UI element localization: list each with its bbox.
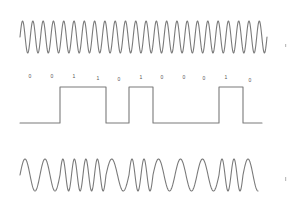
bit-label: 0 — [51, 73, 54, 79]
bit-label: 0 — [183, 74, 186, 80]
bit-label: 1 — [140, 74, 143, 80]
fsk-modulated-wave — [20, 159, 258, 191]
bit-label: 1 — [97, 75, 100, 81]
bit-label: 0 — [249, 77, 252, 83]
fsk-diagram: 00110100010 — [0, 0, 287, 210]
bit-label: 1 — [73, 73, 76, 79]
binary-data-square-wave — [20, 87, 262, 123]
scan-mark-bottom — [285, 177, 286, 181]
bit-label: 0 — [161, 74, 164, 80]
bit-labels: 00110100010 — [29, 73, 252, 83]
carrier-sine-wave — [20, 21, 267, 53]
bit-label: 0 — [118, 76, 121, 82]
bit-label: 1 — [225, 74, 228, 80]
scan-mark-top — [285, 44, 286, 47]
bit-label: 0 — [203, 75, 206, 81]
bit-label: 0 — [29, 73, 32, 79]
